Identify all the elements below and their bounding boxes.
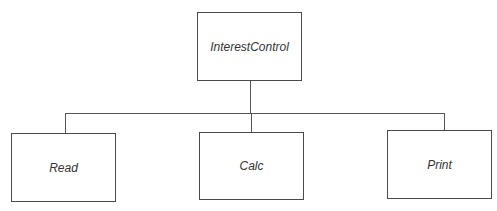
connector-root-vertical [250, 81, 251, 114]
module-calc: Calc [199, 132, 304, 200]
module-label: Print [427, 158, 452, 172]
connector-read-vertical [65, 113, 66, 133]
connector-calc-vertical [251, 113, 252, 132]
module-label: InterestControl [210, 40, 289, 54]
module-label: Read [49, 161, 78, 175]
module-label: Calc [239, 159, 263, 173]
connector-bus-horizontal [65, 113, 445, 114]
module-print: Print [387, 130, 492, 199]
module-interestcontrol: InterestControl [197, 12, 302, 81]
connector-print-vertical [444, 113, 445, 130]
module-read: Read [11, 133, 116, 202]
